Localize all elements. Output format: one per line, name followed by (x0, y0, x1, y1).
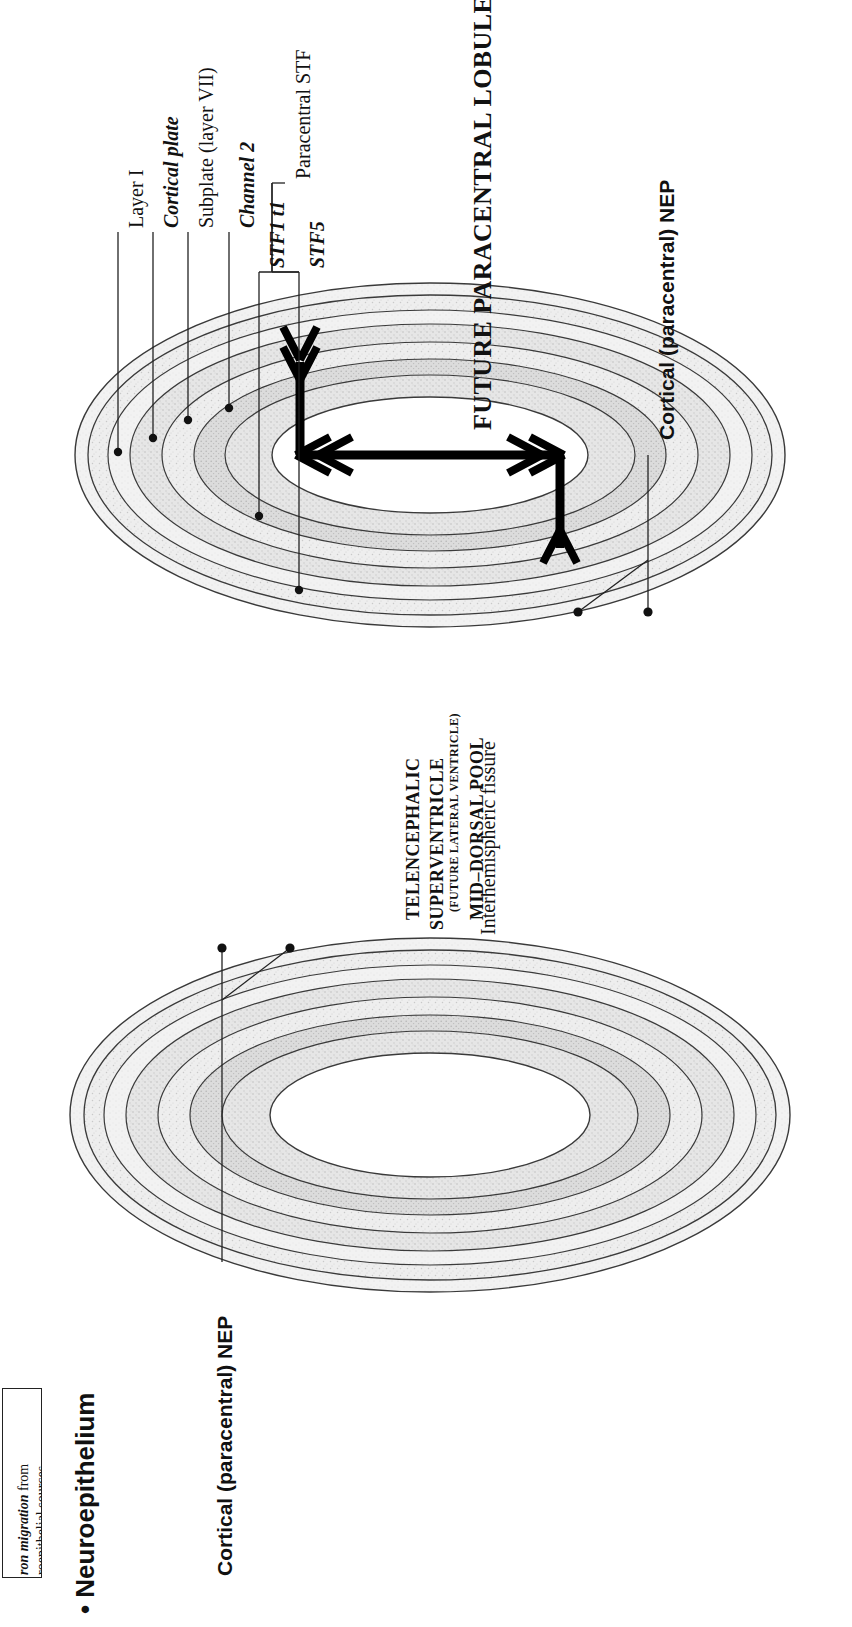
label-paracentral-stf: Paracentral STF (293, 50, 313, 179)
sidebar-heading-text: Neuroepithelium (70, 1393, 100, 1598)
ventricle-label-line4: MID–DORSAL POOL (468, 737, 486, 920)
page-title: FUTURE PARACENTRAL LOBULE (470, 0, 496, 430)
caption-line-2: roepithelial sources. (35, 1462, 42, 1575)
caption-box: ron migration from roepithelial sources. (2, 1388, 42, 1578)
label-cortical-plate: Cortical plate (161, 116, 181, 228)
caption-line-1: ron migration from (17, 1464, 31, 1575)
label-paracentral-stf-text: Paracentral STF (292, 50, 314, 179)
sidebar-heading-bullet: • (70, 1598, 100, 1614)
sidebar-heading: • Neuroepithelium (72, 1393, 98, 1614)
ventricle-label-line2: SUPERVENTRICLE (428, 758, 446, 930)
label-channel-2: Channel 2 (237, 142, 257, 228)
caption-line-1-emph: ron migration (16, 1494, 31, 1575)
ventricle-label-line3: (FUTURE LATERAL VENTRICLE) (448, 713, 460, 912)
label-layer-i: Layer I (126, 170, 146, 228)
figure-canvas: FUTURE PARACENTRAL LOBULE Layer I Cortic… (0, 0, 852, 1627)
lower-brain-section (70, 938, 790, 1292)
caption-line-1-rest: from (16, 1464, 31, 1495)
label-cortical-nep-top: Cortical (paracentral) NEP (656, 180, 677, 440)
ventricle-label-line1: TELENCEPHALIC (404, 757, 422, 920)
label-stf1-t1: STF1 t1 (267, 201, 287, 268)
label-cortical-nep-bottom: Cortical (paracentral) NEP (214, 1316, 235, 1576)
label-stf5: STF5 (307, 221, 327, 268)
label-subplate: Subplate (layer VII) (196, 67, 216, 228)
brain-section-illustration (0, 0, 852, 1627)
